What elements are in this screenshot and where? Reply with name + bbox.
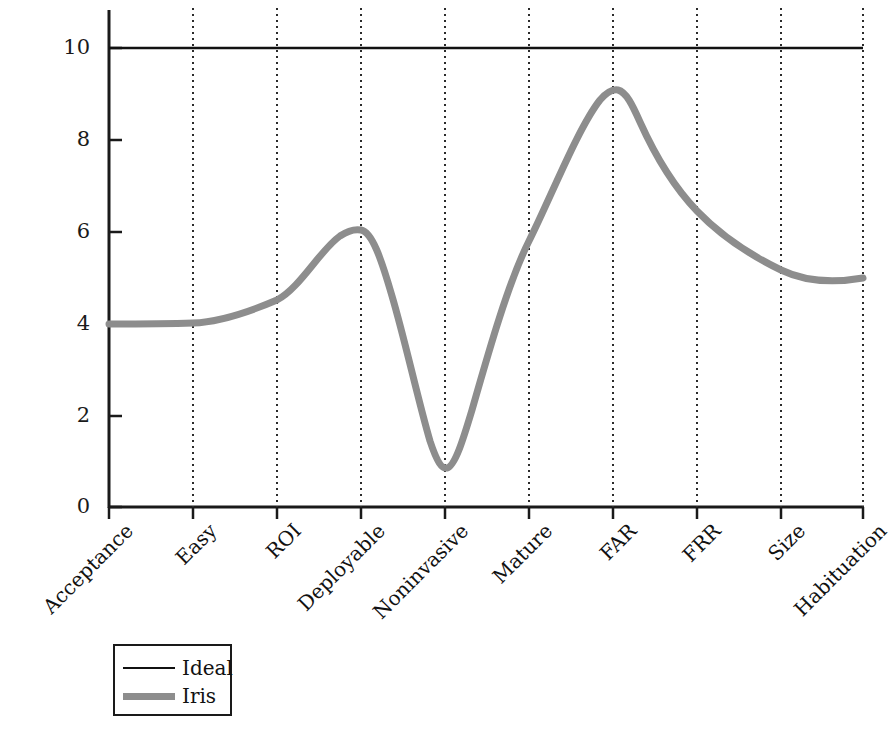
chart-figure: 10 8 6 4 2 0 Acceptance Easy ROI Deploya…: [0, 0, 889, 749]
y-tick-label: 0: [46, 496, 90, 517]
legend-swatch-ideal-icon: [123, 662, 175, 674]
y-tick-label: 8: [46, 129, 90, 150]
legend: Ideal Iris: [113, 644, 232, 716]
legend-item-iris[interactable]: Iris: [123, 684, 216, 708]
chart-canvas: [0, 0, 889, 749]
y-tick-label: 2: [46, 405, 90, 426]
y-axis-ticks: [109, 48, 122, 507]
axis-frame: [108, 10, 864, 508]
legend-label: Ideal: [182, 658, 233, 678]
legend-label: Iris: [182, 686, 216, 706]
y-tick-label: 6: [46, 221, 90, 242]
x-axis-ticks: [109, 507, 863, 519]
y-tick-label: 10: [46, 37, 90, 58]
series-line-iris: [109, 90, 863, 468]
y-tick-label: 4: [46, 313, 90, 334]
legend-swatch-iris-icon: [123, 690, 175, 702]
legend-item-ideal[interactable]: Ideal: [123, 656, 233, 680]
